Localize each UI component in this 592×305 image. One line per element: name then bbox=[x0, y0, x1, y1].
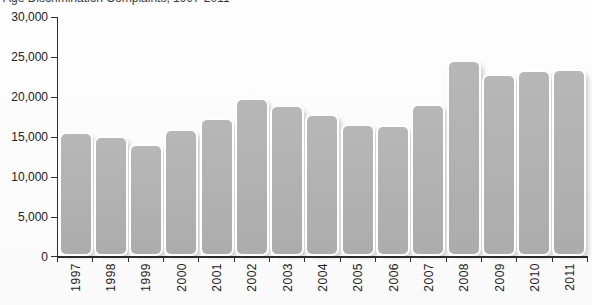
bar-slot bbox=[93, 17, 128, 257]
x-axis-tick-label: 2007 bbox=[422, 263, 436, 292]
plot-area: 05,00010,00015,00020,00025,00030,000 bbox=[57, 17, 587, 257]
y-axis-tick bbox=[51, 137, 57, 138]
x-label-cell: 2000 bbox=[164, 263, 199, 305]
x-axis-tick bbox=[198, 257, 199, 262]
y-axis-tick-label: 25,000 bbox=[0, 50, 48, 64]
x-axis-tick bbox=[446, 257, 447, 262]
chart-title: Age Discrimination Complaints, 1997-2011 bbox=[3, 0, 230, 5]
x-axis-tick-label: 2000 bbox=[175, 263, 189, 292]
y-axis-tick-label: 15,000 bbox=[0, 130, 48, 144]
y-axis-tick bbox=[51, 17, 57, 18]
bar-slot bbox=[552, 17, 587, 257]
x-axis-tick bbox=[304, 257, 305, 262]
x-axis-tick-label: 2008 bbox=[457, 263, 471, 292]
y-axis-tick-label: 10,000 bbox=[0, 170, 48, 184]
x-axis-tick bbox=[269, 257, 270, 262]
x-label-cell: 2010 bbox=[517, 263, 552, 305]
x-axis-tick-label: 2004 bbox=[316, 263, 330, 292]
bar-2002 bbox=[237, 100, 267, 254]
x-axis-tick-label: 2005 bbox=[351, 263, 365, 292]
x-label-cell: 2009 bbox=[482, 263, 517, 305]
x-axis-tick bbox=[375, 257, 376, 262]
bar-slot bbox=[375, 17, 410, 257]
x-axis-tick bbox=[57, 257, 58, 262]
bar-1998 bbox=[96, 138, 126, 254]
x-axis-tick bbox=[481, 257, 482, 262]
y-axis-tick-label: 0 bbox=[0, 250, 48, 264]
y-axis-tick bbox=[51, 97, 57, 98]
bar-slot bbox=[199, 17, 234, 257]
x-axis-tick-label: 2001 bbox=[210, 263, 224, 292]
x-label-cell: 2002 bbox=[235, 263, 270, 305]
x-label-cell: 2008 bbox=[447, 263, 482, 305]
bar-slot bbox=[305, 17, 340, 257]
x-label-cell: 2004 bbox=[305, 263, 340, 305]
x-axis-tick-label: 2010 bbox=[528, 263, 542, 292]
bar-1997 bbox=[61, 134, 91, 254]
bar-slot bbox=[340, 17, 375, 257]
x-axis-tick bbox=[587, 257, 588, 262]
y-axis-tick bbox=[51, 177, 57, 178]
x-axis-tick-label: 1998 bbox=[104, 263, 118, 292]
bar-2011 bbox=[554, 71, 584, 254]
x-axis-tick bbox=[234, 257, 235, 262]
x-label-cell: 2007 bbox=[411, 263, 446, 305]
x-label-cell: 1998 bbox=[93, 263, 128, 305]
x-label-cell: 2001 bbox=[199, 263, 234, 305]
y-axis-tick-label: 30,000 bbox=[0, 10, 48, 24]
y-axis-tick bbox=[51, 217, 57, 218]
y-axis-tick-label: 5,000 bbox=[0, 210, 48, 224]
bar-2003 bbox=[272, 107, 302, 254]
x-label-cell: 2003 bbox=[270, 263, 305, 305]
bar-slot bbox=[270, 17, 305, 257]
y-axis-tick bbox=[51, 57, 57, 58]
x-axis-tick-label: 1997 bbox=[69, 263, 83, 292]
x-axis-tick bbox=[340, 257, 341, 262]
bar-2001 bbox=[202, 120, 232, 254]
bar-2007 bbox=[413, 106, 443, 254]
bar-2010 bbox=[519, 72, 549, 254]
bar-2004 bbox=[307, 116, 337, 254]
bar-chart: Age Discrimination Complaints, 1997-2011… bbox=[0, 0, 592, 305]
x-axis-tick bbox=[163, 257, 164, 262]
bar-slot bbox=[446, 17, 481, 257]
bar-slot bbox=[516, 17, 551, 257]
x-label-cell: 2006 bbox=[376, 263, 411, 305]
bar-slot bbox=[58, 17, 93, 257]
bar-2000 bbox=[166, 131, 196, 254]
x-axis-tick bbox=[410, 257, 411, 262]
x-axis-tick-label: 1999 bbox=[139, 263, 153, 292]
x-axis-tick-label: 2003 bbox=[281, 263, 295, 292]
y-axis-tick-label: 20,000 bbox=[0, 90, 48, 104]
x-axis-tick bbox=[128, 257, 129, 262]
bar-slot bbox=[411, 17, 446, 257]
bar-1999 bbox=[131, 146, 161, 254]
x-label-cell: 2005 bbox=[341, 263, 376, 305]
x-axis-tick-label: 2006 bbox=[387, 263, 401, 292]
x-label-cell: 1999 bbox=[129, 263, 164, 305]
bar-slot bbox=[129, 17, 164, 257]
x-axis-tick-label: 2011 bbox=[563, 263, 577, 291]
x-label-cell: 2011 bbox=[553, 263, 588, 305]
bars-container bbox=[58, 17, 587, 257]
x-axis-labels: 1997199819992000200120022003200420052006… bbox=[58, 263, 588, 305]
x-axis-tick-label: 2002 bbox=[245, 263, 259, 292]
x-axis-tick bbox=[516, 257, 517, 262]
bar-2008 bbox=[449, 62, 479, 254]
bar-2009 bbox=[484, 76, 514, 254]
bar-slot bbox=[481, 17, 516, 257]
x-axis-tick bbox=[552, 257, 553, 262]
bar-slot bbox=[234, 17, 269, 257]
bar-slot bbox=[164, 17, 199, 257]
x-axis-tick-label: 2009 bbox=[493, 263, 507, 292]
bar-2005 bbox=[343, 126, 373, 254]
x-axis-tick bbox=[92, 257, 93, 262]
bar-2006 bbox=[378, 127, 408, 254]
x-label-cell: 1997 bbox=[58, 263, 93, 305]
